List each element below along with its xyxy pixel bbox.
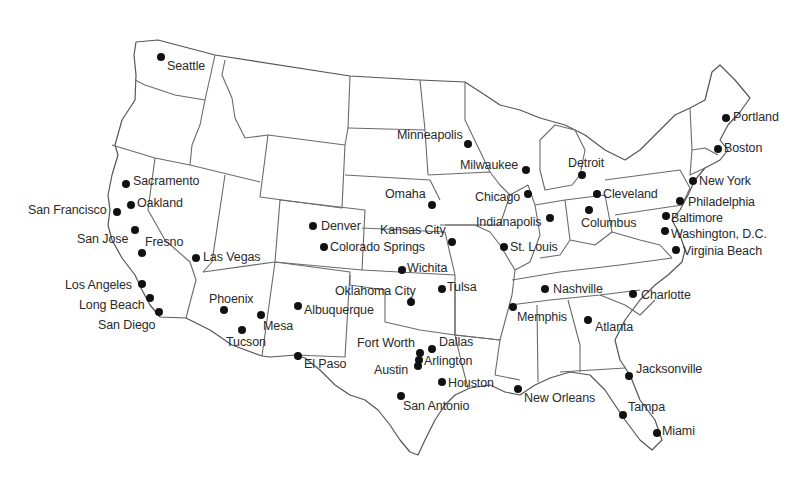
city-dot-icon bbox=[541, 285, 549, 293]
city-dot-icon bbox=[138, 249, 146, 257]
city-dot-icon bbox=[428, 345, 436, 353]
city-label: Philadelphia bbox=[688, 196, 755, 209]
city-label: New York bbox=[699, 175, 751, 188]
city-dot-icon bbox=[138, 280, 146, 288]
city-dot-icon bbox=[294, 352, 302, 360]
city-markers: SeattlePortlandMinneapolisBostonMilwauke… bbox=[0, 0, 799, 491]
city-dot-icon bbox=[629, 290, 637, 298]
city-dot-icon bbox=[714, 145, 722, 153]
city-label: New Orleans bbox=[524, 392, 595, 405]
city-label: Mesa bbox=[263, 320, 293, 333]
city-label: Tampa bbox=[628, 401, 665, 414]
city-label: Albuquerque bbox=[304, 304, 374, 317]
city-label: Virginia Beach bbox=[683, 245, 762, 258]
city-dot-icon bbox=[122, 180, 130, 188]
city-dot-icon bbox=[464, 140, 472, 148]
city-label: St. Louis bbox=[510, 241, 558, 254]
city-label: Phoenix bbox=[209, 293, 253, 306]
city-label: Austin bbox=[374, 364, 408, 377]
city-label: Milwaukee bbox=[460, 159, 518, 172]
city-dot-icon bbox=[672, 246, 680, 254]
city-dot-icon bbox=[448, 238, 456, 246]
city-label: Miami bbox=[662, 425, 695, 438]
city-dot-icon bbox=[546, 214, 554, 222]
city-dot-icon bbox=[438, 378, 446, 386]
city-label: Los Angeles bbox=[65, 279, 132, 292]
city-dot-icon bbox=[192, 254, 200, 262]
city-label: Wichita bbox=[407, 262, 447, 275]
city-label: Seattle bbox=[167, 60, 205, 73]
city-label: Baltimore bbox=[671, 212, 723, 225]
city-label: Cleveland bbox=[603, 188, 658, 201]
city-label: Oklahoma City bbox=[335, 285, 416, 298]
city-label: Washington, D.C. bbox=[671, 228, 767, 241]
city-dot-icon bbox=[585, 206, 593, 214]
city-label: Memphis bbox=[517, 311, 567, 324]
city-dot-icon bbox=[309, 222, 317, 230]
city-label: Nashville bbox=[553, 283, 603, 296]
city-label: Denver bbox=[321, 220, 361, 233]
city-dot-icon bbox=[584, 316, 592, 324]
city-dot-icon bbox=[676, 197, 684, 205]
city-dot-icon bbox=[127, 201, 135, 209]
city-dot-icon bbox=[514, 385, 522, 393]
city-label: Indianapolis bbox=[476, 216, 542, 229]
city-label: El Paso bbox=[304, 358, 346, 371]
city-label: San Jose bbox=[77, 233, 128, 246]
city-dot-icon bbox=[320, 243, 328, 251]
city-label: Fort Worth bbox=[357, 337, 415, 350]
city-label: Arlington bbox=[424, 355, 472, 368]
city-label: Long Beach bbox=[79, 299, 145, 312]
city-dot-icon bbox=[722, 114, 730, 122]
city-dot-icon bbox=[500, 243, 508, 251]
city-label: Portland bbox=[733, 111, 779, 124]
city-dot-icon bbox=[662, 212, 670, 220]
city-dot-icon bbox=[428, 201, 436, 209]
city-dot-icon bbox=[220, 306, 228, 314]
city-label: Atlanta bbox=[595, 321, 633, 334]
city-label: Kansas City bbox=[380, 224, 446, 237]
city-label: Charlotte bbox=[641, 289, 691, 302]
city-label: Chicago bbox=[475, 191, 520, 204]
city-label: Tucson bbox=[226, 336, 266, 349]
city-label: Omaha bbox=[385, 188, 426, 201]
city-label: San Diego bbox=[98, 319, 155, 332]
city-dot-icon bbox=[438, 285, 446, 293]
city-label: Tulsa bbox=[447, 281, 477, 294]
city-label: Boston bbox=[724, 142, 762, 155]
city-dot-icon bbox=[509, 303, 517, 311]
city-dot-icon bbox=[113, 208, 121, 216]
city-label: Minneapolis bbox=[397, 129, 463, 142]
city-label: San Antonio bbox=[403, 400, 469, 413]
city-dot-icon bbox=[157, 53, 165, 61]
city-dot-icon bbox=[257, 311, 265, 319]
city-label: Dallas bbox=[439, 336, 473, 349]
city-dot-icon bbox=[653, 429, 661, 437]
city-dot-icon bbox=[625, 372, 633, 380]
city-dot-icon bbox=[238, 326, 246, 334]
city-dot-icon bbox=[155, 308, 163, 316]
city-dot-icon bbox=[619, 411, 627, 419]
city-label: Columbus bbox=[581, 217, 636, 230]
city-label: Sacramento bbox=[133, 175, 199, 188]
city-dot-icon bbox=[524, 190, 532, 198]
city-dot-icon bbox=[414, 362, 422, 370]
city-dot-icon bbox=[146, 294, 154, 302]
city-label: Colorado Springs bbox=[330, 241, 425, 254]
city-dot-icon bbox=[398, 266, 406, 274]
city-dot-icon bbox=[689, 177, 697, 185]
city-dot-icon bbox=[661, 227, 669, 235]
city-label: Oakland bbox=[137, 197, 183, 210]
city-label: San Francisco bbox=[28, 204, 107, 217]
city-dot-icon bbox=[522, 166, 530, 174]
city-label: Las Vegas bbox=[203, 251, 260, 264]
city-label: Detroit bbox=[568, 157, 604, 170]
city-label: Houston bbox=[448, 377, 494, 390]
us-city-map: SeattlePortlandMinneapolisBostonMilwauke… bbox=[0, 0, 799, 491]
city-label: Fresno bbox=[145, 236, 183, 249]
city-dot-icon bbox=[131, 226, 139, 234]
city-dot-icon bbox=[578, 171, 586, 179]
city-label: Jacksonville bbox=[636, 363, 702, 376]
city-dot-icon bbox=[294, 302, 302, 310]
city-dot-icon bbox=[593, 190, 601, 198]
